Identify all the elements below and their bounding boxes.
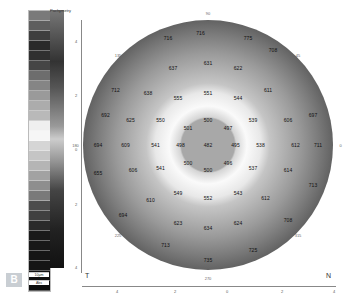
thickness-value: 537 xyxy=(249,165,257,171)
thickness-value: 622 xyxy=(234,65,242,71)
thickness-value: 555 xyxy=(174,95,182,101)
thickness-value: 623 xyxy=(174,220,182,226)
scale-swatch xyxy=(29,261,50,271)
degree-label: 180 xyxy=(72,143,79,148)
thickness-value: 625 xyxy=(126,117,134,123)
scale-swatch xyxy=(29,131,50,141)
degree-label: 270 xyxy=(205,275,212,280)
thickness-value: 538 xyxy=(256,142,264,148)
y-tick: 0 xyxy=(75,147,77,152)
thickness-value: 634 xyxy=(204,225,212,231)
scale-unit: 10µm xyxy=(29,272,49,277)
thickness-value: 708 xyxy=(284,217,292,223)
thickness-value: 541 xyxy=(151,142,159,148)
degree-label: 225 xyxy=(115,233,122,238)
thickness-value: 775 xyxy=(244,35,252,41)
thickness-value: 543 xyxy=(234,190,242,196)
x-tick: 4 xyxy=(116,289,118,294)
thickness-value: 694 xyxy=(119,212,127,218)
thickness-value: 624 xyxy=(234,220,242,226)
thickness-value: 655 xyxy=(94,170,102,176)
thickness-value: 498 xyxy=(176,142,184,148)
scale-swatch xyxy=(29,151,50,161)
scale-swatch xyxy=(29,101,50,111)
scale-swatch xyxy=(29,71,50,81)
scale-swatch xyxy=(29,251,50,261)
scale-swatch xyxy=(29,141,50,151)
scale-swatch xyxy=(29,11,50,21)
thickness-value: 544 xyxy=(234,95,242,101)
scale-swatch xyxy=(29,171,50,181)
scale-swatch xyxy=(29,91,50,101)
thickness-value: 711 xyxy=(314,142,322,148)
scale-swatch xyxy=(29,191,50,201)
scale-swatch xyxy=(29,201,50,211)
thickness-value: 500 xyxy=(184,160,192,166)
thickness-value: 549 xyxy=(174,190,182,196)
x-tick: 2 xyxy=(174,289,176,294)
thickness-value: 716 xyxy=(164,35,172,41)
thickness-value: 631 xyxy=(204,60,212,66)
thickness-value: 550 xyxy=(156,117,164,123)
scale-swatch xyxy=(29,51,50,61)
thickness-value: 551 xyxy=(204,90,212,96)
thickness-value: 500 xyxy=(204,167,212,173)
thickness-value: 501 xyxy=(184,125,192,131)
scale-swatch xyxy=(29,111,50,121)
thickness-value: 614 xyxy=(284,167,292,173)
x-tick: 2 xyxy=(281,289,283,294)
thickness-value: 692 xyxy=(101,112,109,118)
scale-mode: Abs xyxy=(29,280,49,285)
x-axis xyxy=(82,286,336,287)
thickness-value: 708 xyxy=(269,47,277,53)
thickness-value: 552 xyxy=(204,195,212,201)
x-tick: 4 xyxy=(333,289,335,294)
scale-swatch xyxy=(29,181,50,191)
degree-label: 45 xyxy=(296,53,300,58)
thickness-value: 482 xyxy=(204,142,212,148)
panel-label: B xyxy=(6,273,22,287)
scale-swatch xyxy=(29,161,50,171)
thickness-value: 497 xyxy=(224,125,232,131)
thickness-value: 697 xyxy=(309,112,317,118)
scale-swatch xyxy=(29,61,50,71)
thickness-value: 637 xyxy=(169,65,177,71)
scale-swatch xyxy=(29,21,50,31)
y-tick: 2 xyxy=(75,202,77,207)
color-scale-gradient xyxy=(50,10,64,268)
thickness-value: 612 xyxy=(291,142,299,148)
x-tick: 0 xyxy=(226,289,228,294)
thickness-value: 716 xyxy=(196,30,204,36)
scale-title: Pachymetry xyxy=(50,8,71,13)
thickness-value: 713 xyxy=(309,182,317,188)
thickness-value: 496 xyxy=(224,160,232,166)
degree-label: 135 xyxy=(115,53,122,58)
thickness-value: 539 xyxy=(249,117,257,123)
scale-swatch xyxy=(29,121,50,131)
thickness-value: 725 xyxy=(249,247,257,253)
scale-swatch xyxy=(29,41,50,51)
thickness-value: 606 xyxy=(284,117,292,123)
temporal-label: T xyxy=(85,272,89,279)
thickness-value: 713 xyxy=(161,242,169,248)
color-scale-bar xyxy=(28,10,51,292)
thickness-value: 612 xyxy=(261,195,269,201)
y-tick: 4 xyxy=(75,265,77,270)
scale-swatch xyxy=(29,211,50,221)
thickness-value: 735 xyxy=(204,257,212,263)
thickness-value: 500 xyxy=(204,117,212,123)
scale-swatch xyxy=(29,231,50,241)
degree-label: 315 xyxy=(295,233,302,238)
thickness-value: 541 xyxy=(156,165,164,171)
scale-swatch xyxy=(29,241,50,251)
y-axis xyxy=(81,20,82,273)
thickness-value: 609 xyxy=(121,142,129,148)
thickness-value: 495 xyxy=(231,142,239,148)
degree-label: 90 xyxy=(206,10,210,15)
degree-label: 0 xyxy=(339,143,341,148)
nasal-label: N xyxy=(326,272,331,279)
thickness-value: 611 xyxy=(264,87,272,93)
thickness-value: 694 xyxy=(94,142,102,148)
y-tick: 2 xyxy=(75,93,77,98)
y-tick: 4 xyxy=(75,39,77,44)
